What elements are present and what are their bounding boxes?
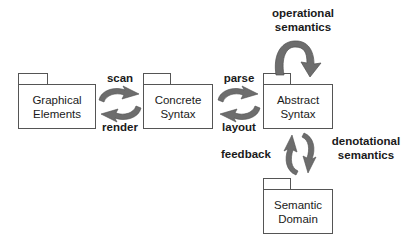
- scan-render-arrow-pair: [97, 85, 143, 123]
- package-label-line2: Syntax: [160, 107, 195, 121]
- render-label: render: [92, 121, 148, 135]
- graphical-elements-package[interactable]: Graphical Elements: [18, 73, 96, 129]
- package-label-line1: Semantic: [274, 198, 322, 212]
- operational-semantics-arrow: [272, 38, 328, 78]
- parse-layout-arrow-pair: [216, 85, 262, 123]
- package-label-line2: Domain: [278, 212, 318, 226]
- package-label-line1: Graphical: [32, 93, 81, 107]
- package-label-line2: Syntax: [280, 107, 315, 121]
- operational-semantics-label: operational semantics: [251, 7, 355, 34]
- denotational-semantics-label: denotational semantics: [322, 135, 410, 162]
- abstract-syntax-package[interactable]: Abstract Syntax: [263, 73, 333, 129]
- package-label-line1: Abstract: [277, 93, 319, 107]
- package-body: Graphical Elements: [18, 84, 96, 129]
- feedback-denotational-arrow-pair: [283, 131, 317, 177]
- layout-label: layout: [212, 121, 266, 135]
- concrete-syntax-package[interactable]: Concrete Syntax: [143, 73, 213, 129]
- diagram-canvas: Graphical Elements Concrete Syntax Abstr…: [0, 0, 412, 241]
- feedback-label: feedback: [221, 148, 271, 162]
- package-label-line1: Concrete: [155, 93, 202, 107]
- package-body: Abstract Syntax: [263, 84, 333, 129]
- package-body: Semantic Domain: [263, 189, 333, 234]
- package-label-line2: Elements: [33, 107, 81, 121]
- parse-label: parse: [214, 72, 264, 86]
- package-body: Concrete Syntax: [143, 84, 213, 129]
- semantic-domain-package[interactable]: Semantic Domain: [263, 178, 333, 234]
- scan-label: scan: [97, 72, 143, 86]
